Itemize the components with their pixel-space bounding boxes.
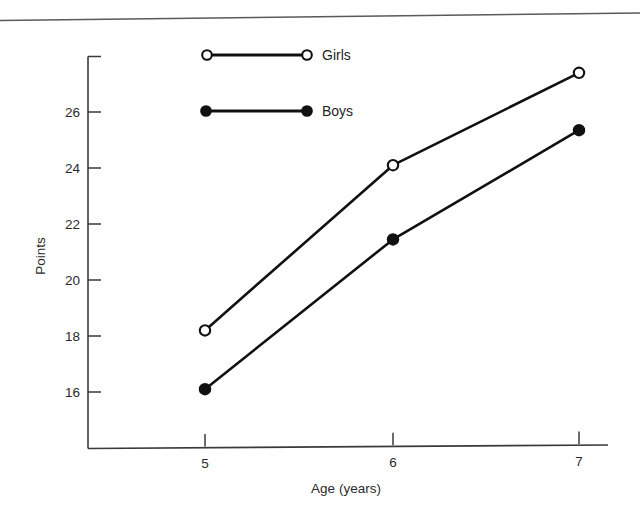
x-tick-marks (205, 432, 579, 447)
data-point-girls-age-5 (200, 325, 210, 335)
chart-figure: 26 24 22 20 18 16 5 6 7 Points Age (year… (0, 0, 640, 520)
legend-marker-boys-left (201, 106, 211, 116)
x-axis (88, 445, 608, 449)
legend-entry-boys: Boys (201, 103, 353, 119)
y-axis-title: Points (33, 237, 48, 275)
data-point-girls-age-6 (388, 160, 398, 170)
chart-legend: Girls Boys (201, 47, 353, 119)
data-point-girls-age-7 (574, 68, 584, 78)
data-point-boys-age-6 (388, 234, 398, 244)
y-tick-label-16: 16 (65, 385, 80, 400)
x-tick-labels: 5 6 7 (201, 454, 583, 471)
series-girls (200, 68, 584, 336)
y-tick-marks (88, 112, 101, 392)
y-tick-label-24: 24 (65, 161, 81, 176)
legend-marker-girls-right (302, 50, 312, 60)
legend-label-girls: Girls (322, 47, 351, 63)
y-tick-labels: 26 24 22 20 18 16 (65, 105, 81, 400)
line-chart-plot: 26 24 22 20 18 16 5 6 7 Points Age (year… (0, 0, 640, 520)
y-tick-label-20: 20 (65, 273, 80, 288)
y-tick-label-22: 22 (65, 217, 80, 232)
x-tick-label-5: 5 (201, 456, 209, 471)
legend-entry-girls: Girls (202, 47, 351, 63)
x-axis-title: Age (years) (311, 481, 381, 496)
x-tick-label-6: 6 (389, 455, 397, 470)
y-tick-label-18: 18 (65, 329, 80, 344)
data-point-boys-age-7 (574, 125, 584, 135)
y-tick-label-26: 26 (65, 105, 80, 120)
y-axis (88, 57, 101, 449)
x-tick-label-7: 7 (575, 454, 583, 469)
legend-marker-boys-right (302, 106, 312, 116)
legend-label-boys: Boys (322, 103, 353, 119)
data-point-boys-age-5 (200, 384, 210, 394)
legend-marker-girls-left (202, 50, 212, 60)
